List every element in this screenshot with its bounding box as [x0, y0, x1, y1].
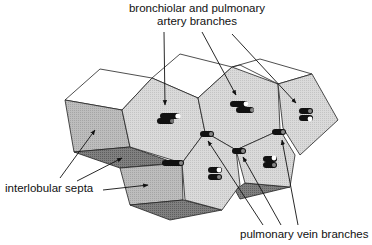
- lobule-illustration: [0, 0, 372, 245]
- label-bronchiolar-artery: bronchiolar and pulmonary artery branche…: [0, 2, 372, 28]
- label-pulmonary-vein: pulmonary vein branches: [240, 228, 369, 241]
- septa-side-face-lower: [120, 163, 183, 205]
- arrow-septa-2: [77, 158, 122, 181]
- lobule-diagram: bronchiolar and pulmonary artery branche…: [0, 0, 372, 245]
- label-interlobular-septa: interlobular septa: [5, 182, 93, 195]
